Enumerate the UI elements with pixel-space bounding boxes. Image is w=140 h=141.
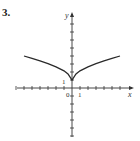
x-axis-label: x: [127, 90, 132, 99]
origin-label: 0: [66, 91, 70, 99]
function-graph: x y 0 1 1: [0, 0, 140, 141]
tick-marks: [16, 24, 120, 136]
y-unit-label: 1: [62, 78, 66, 86]
y-axis-label: y: [64, 11, 69, 20]
x-unit-label: 1: [78, 91, 82, 99]
